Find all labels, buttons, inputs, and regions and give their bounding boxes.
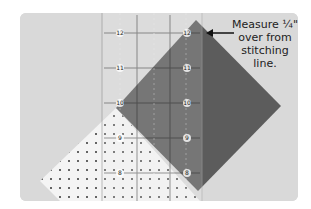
svg-text:10: 10 <box>183 99 191 106</box>
svg-text:8: 8 <box>185 169 189 176</box>
svg-text:12: 12 <box>116 29 124 36</box>
caption-line-4: line. <box>232 57 298 70</box>
svg-text:9: 9 <box>185 134 189 141</box>
annotation-caption: Measure ¼" over from stitching line. <box>232 18 298 70</box>
svg-text:11: 11 <box>183 64 191 71</box>
caption-line-2: over from <box>232 31 298 44</box>
caption-line-1: Measure ¼" <box>232 18 298 31</box>
svg-text:8: 8 <box>118 169 122 176</box>
caption-line-3: stitching <box>232 44 298 57</box>
svg-text:10: 10 <box>116 99 124 106</box>
svg-text:11: 11 <box>116 64 124 71</box>
svg-text:9: 9 <box>118 134 122 141</box>
svg-text:12: 12 <box>183 29 191 36</box>
